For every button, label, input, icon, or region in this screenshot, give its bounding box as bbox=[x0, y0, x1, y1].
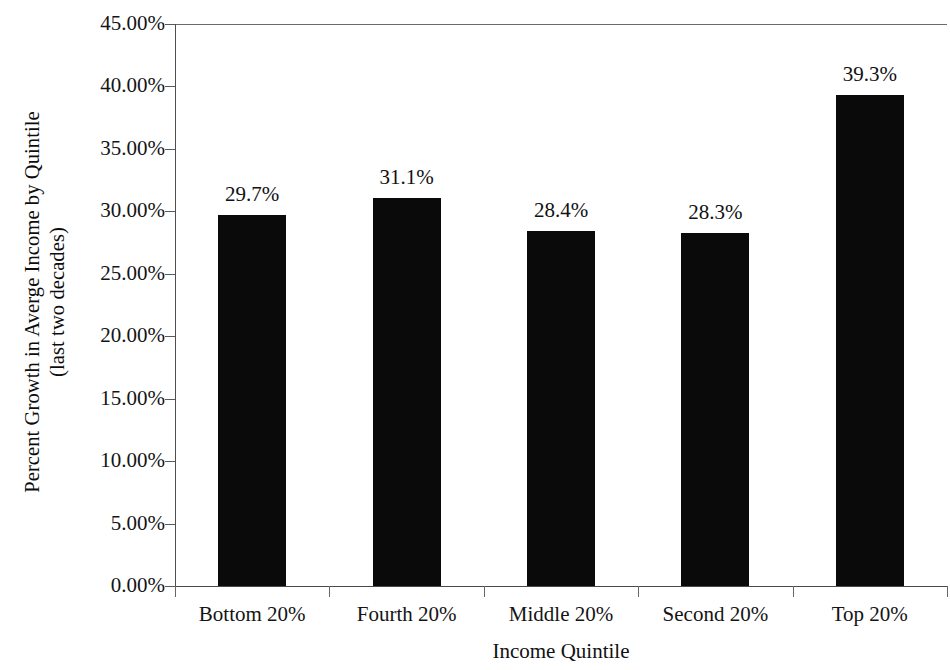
x-axis-tick-label: Top 20% bbox=[790, 601, 950, 627]
y-axis-tick-mark bbox=[165, 399, 175, 400]
y-axis-tick-label: 0.00% bbox=[47, 575, 165, 596]
bar-value-label: 28.3% bbox=[645, 202, 785, 223]
y-axis-tick-label: 35.00% bbox=[47, 138, 165, 159]
bar bbox=[527, 231, 595, 586]
y-axis-tick-mark bbox=[165, 149, 175, 150]
y-axis-tick-mark bbox=[165, 336, 175, 337]
x-axis-line bbox=[175, 586, 947, 587]
y-axis-tick-label: 25.00% bbox=[47, 263, 165, 284]
x-axis-tick-mark bbox=[484, 586, 485, 597]
y-axis-tick-mark bbox=[165, 586, 175, 587]
bar bbox=[681, 233, 749, 586]
x-axis-tick-label: Middle 20% bbox=[481, 601, 641, 627]
y-axis-tick-mark bbox=[165, 461, 175, 462]
x-axis-tick-mark bbox=[793, 586, 794, 597]
bar-value-label: 39.3% bbox=[800, 64, 940, 85]
bar-value-label: 28.4% bbox=[491, 200, 631, 221]
bar-value-label: 31.1% bbox=[337, 167, 477, 188]
y-axis-tick-mark bbox=[165, 24, 175, 25]
x-axis-tick-mark bbox=[175, 586, 176, 597]
y-axis-tick-label: 45.00% bbox=[47, 13, 165, 34]
bar bbox=[373, 198, 441, 586]
bar bbox=[836, 95, 904, 586]
x-axis-tick-mark bbox=[329, 586, 330, 597]
y-axis-tick-mark bbox=[165, 211, 175, 212]
y-axis-tick-mark bbox=[165, 524, 175, 525]
y-axis-tick-mark bbox=[165, 274, 175, 275]
x-axis-tick-mark bbox=[947, 586, 948, 597]
y-axis-tick-label: 5.00% bbox=[47, 513, 165, 534]
bar-value-label: 29.7% bbox=[182, 184, 322, 205]
y-axis-tick-labels: 0.00%5.00%10.00%15.00%20.00%25.00%30.00%… bbox=[40, 0, 165, 670]
bars-layer bbox=[175, 24, 947, 586]
y-axis-tick-label: 30.00% bbox=[47, 200, 165, 221]
y-axis-tick-label: 20.00% bbox=[47, 325, 165, 346]
y-axis-tick-label: 40.00% bbox=[47, 75, 165, 96]
y-axis-tick-label: 10.00% bbox=[47, 450, 165, 471]
y-axis-tick-label: 15.00% bbox=[47, 388, 165, 409]
x-axis-tick-label: Second 20% bbox=[635, 601, 795, 627]
x-axis-tick-mark bbox=[638, 586, 639, 597]
y-axis-tick-mark bbox=[165, 86, 175, 87]
x-axis-tick-label: Fourth 20% bbox=[327, 601, 487, 627]
x-axis-tick-labels: Bottom 20%Fourth 20%Middle 20%Second 20%… bbox=[175, 601, 947, 635]
x-axis-tick-label: Bottom 20% bbox=[172, 601, 332, 627]
bar bbox=[218, 215, 286, 586]
x-axis-title: Income Quintile bbox=[175, 639, 947, 664]
